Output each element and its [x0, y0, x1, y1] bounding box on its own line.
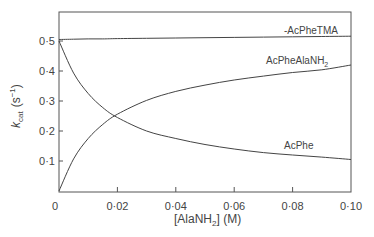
y-tick-label: 0·5 — [39, 35, 55, 47]
curve-acphetma — [59, 36, 351, 39]
y-tick-label: 0·1 — [39, 155, 55, 167]
y-tick-label: 0 — [52, 200, 58, 212]
series-label-acphe: AcPhe — [284, 140, 314, 151]
y-tick-label: 0·2 — [39, 125, 55, 137]
x-tick-label: 0·08 — [282, 200, 304, 212]
y-axis-label: kcat(s−1) — [8, 84, 25, 128]
series-label-acphetma: -AcPheTMA — [284, 25, 338, 36]
x-tick-label: 0·06 — [223, 200, 245, 212]
x-tick-label: 0·02 — [106, 200, 128, 212]
chart: 00·10·20·30·40·5 0·020·040·060·080·10 -A… — [0, 0, 374, 237]
x-axis-ticks: 0·020·040·060·080·10 — [106, 187, 362, 212]
x-tick-label: 0·10 — [340, 200, 362, 212]
x-axis-label: [AlaNH2] (M) — [174, 212, 241, 228]
y-tick-label: 0·4 — [39, 65, 55, 77]
series-label-acphealanh2: AcPheAlaNH2 — [266, 55, 328, 68]
y-tick-label: 0·3 — [39, 95, 55, 107]
x-tick-label: 0·04 — [165, 200, 187, 212]
curve-acphealanh2 — [59, 65, 351, 191]
